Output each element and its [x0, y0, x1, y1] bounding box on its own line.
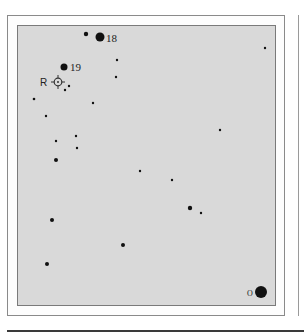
star-dot — [219, 129, 221, 131]
star-dot — [84, 32, 88, 36]
target-label: R — [40, 77, 47, 88]
comparison-star-labels: 18 19 O — [70, 32, 253, 298]
star-dot — [116, 59, 118, 61]
target-center-dot — [57, 81, 59, 83]
star-dot — [68, 85, 70, 87]
star-dot — [64, 89, 66, 91]
star-dot — [76, 147, 78, 149]
star-dot — [75, 135, 77, 137]
star-dot — [115, 76, 117, 78]
star-dot — [200, 212, 202, 214]
star-dot — [33, 98, 36, 101]
star-dot — [139, 170, 141, 172]
star-dot — [92, 102, 94, 104]
star-dot — [255, 286, 267, 298]
star-dot — [45, 115, 47, 117]
star-dot — [45, 262, 49, 266]
comparison-label-18: 18 — [106, 32, 118, 44]
star-dot — [188, 206, 192, 210]
star-dot — [171, 179, 173, 181]
star-dot — [121, 243, 125, 247]
target-variable-star: R — [40, 75, 65, 89]
star-dot — [50, 218, 54, 222]
star-dot — [96, 33, 105, 42]
star-dot — [55, 140, 57, 142]
star-dot — [264, 47, 266, 49]
star-dot — [54, 158, 58, 162]
star-field — [33, 32, 267, 298]
comparison-label-19: 19 — [70, 61, 82, 73]
comparison-label-o: O — [247, 289, 253, 298]
star-dot — [61, 64, 68, 71]
star-chart: R 18 19 O — [0, 0, 304, 332]
